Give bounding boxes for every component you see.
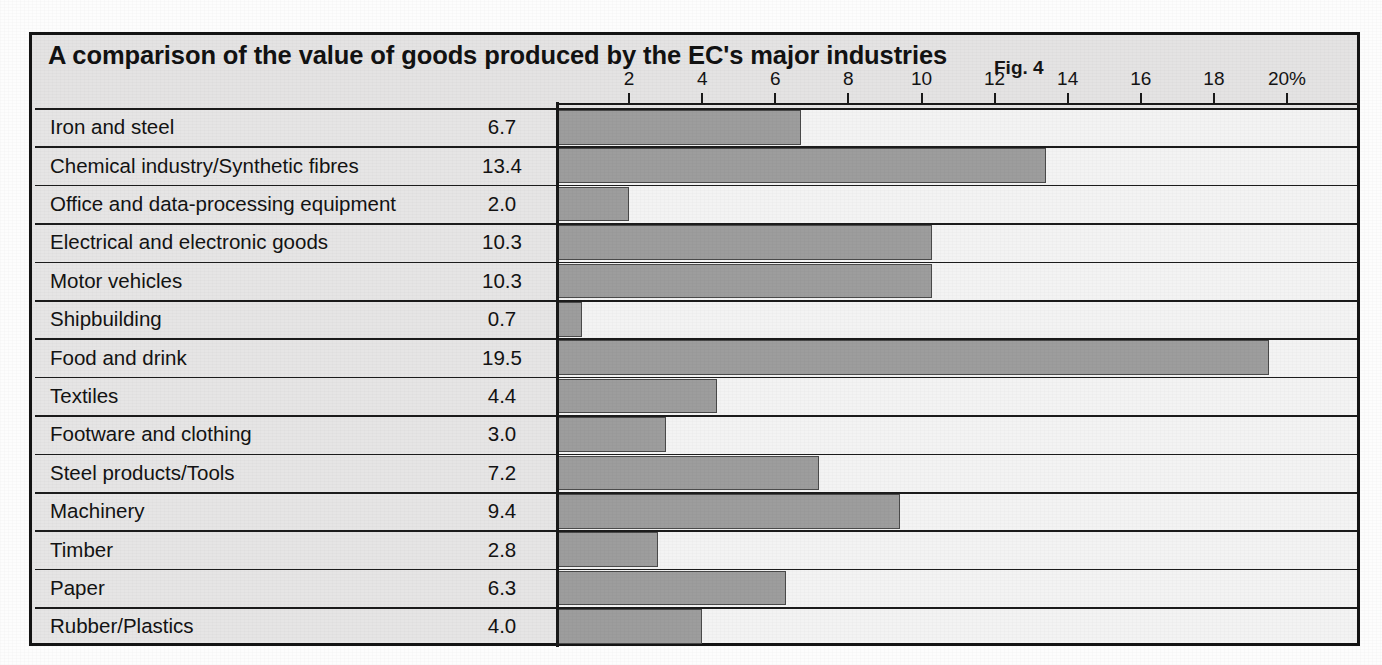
x-axis-tick-label: 14 [1057,68,1078,90]
x-axis-tick-label: 18 [1203,68,1224,90]
bar [556,609,702,644]
bar [556,417,666,452]
bar [556,302,582,337]
bar [556,494,900,529]
chart-row: Rubber/Plastics4.0 [32,607,1357,645]
chart-row: Steel products/Tools7.2 [32,454,1357,492]
category-label: Shipbuilding [50,307,162,331]
bar [556,571,786,606]
chart-figure-frame: A comparison of the value of goods produ… [29,32,1360,646]
x-axis-tick-label: 12 [984,68,1005,90]
chart-row: Iron and steel6.7 [32,108,1357,146]
value-label: 4.0 [447,615,557,639]
value-label: 6.7 [447,116,557,140]
chart-row: Textiles4.4 [32,377,1357,415]
chart-row: Electrical and electronic goods10.3 [32,223,1357,261]
value-label: 10.3 [447,269,557,293]
value-label: 13.4 [447,154,557,178]
category-label: Machinery [50,499,145,523]
chart-row: Food and drink19.5 [32,338,1357,376]
chart-row: Paper6.3 [32,569,1357,607]
category-label: Electrical and electronic goods [50,230,328,254]
chart-row: Office and data-processing equipment2.0 [32,185,1357,223]
value-label: 2.8 [447,538,557,562]
chart-title: A comparison of the value of goods produ… [48,41,947,70]
bar [556,225,932,260]
value-label: 6.3 [447,576,557,600]
scanned-page: A comparison of the value of goods produ… [0,0,1382,665]
y-axis-line [556,102,559,647]
bar [556,110,801,145]
x-axis-tick-label: 10 [911,68,932,90]
bar [556,148,1046,183]
value-label: 2.0 [447,192,557,216]
value-label: 19.5 [447,346,557,370]
chart-row: Footware and clothing3.0 [32,415,1357,453]
value-label: 7.2 [447,461,557,485]
x-axis-tick-label: 2 [624,68,635,90]
value-label: 10.3 [447,231,557,255]
bar [556,532,658,567]
bar [556,340,1269,375]
value-label: 0.7 [447,308,557,332]
row-separator [35,185,1357,187]
chart-row: Motor vehicles10.3 [32,262,1357,300]
category-label: Steel products/Tools [50,460,235,484]
bar [556,456,819,491]
chart-body: Iron and steel6.7Chemical industry/Synth… [32,108,1357,643]
category-label: Paper [50,576,105,600]
x-axis-tick-label: 20% [1268,68,1306,90]
x-axis-baseline [556,103,1360,105]
chart-row: Machinery9.4 [32,492,1357,530]
category-label: Timber [50,537,113,561]
category-label: Textiles [50,384,118,408]
row-separator [35,530,1357,532]
chart-row: Chemical industry/Synthetic fibres13.4 [32,146,1357,184]
category-label: Office and data-processing equipment [50,192,396,216]
category-label: Motor vehicles [50,268,182,292]
row-separator [35,415,1357,417]
x-axis-tick-label: 4 [697,68,708,90]
value-label: 9.4 [447,500,557,524]
bar [556,379,717,414]
category-label: Chemical industry/Synthetic fibres [50,153,359,177]
x-axis-tick-label: 8 [843,68,854,90]
chart-row: Timber2.8 [32,530,1357,568]
value-label: 4.4 [447,384,557,408]
category-label: Iron and steel [50,115,174,139]
x-axis-tick-label: 6 [770,68,781,90]
x-axis-tick-label: 16 [1130,68,1151,90]
chart-row: Shipbuilding0.7 [32,300,1357,338]
category-label: Food and drink [50,345,187,369]
bar [556,187,629,222]
value-label: 3.0 [447,423,557,447]
x-axis-scale: 2468101214161820% [32,68,1357,108]
category-label: Rubber/Plastics [50,614,194,638]
row-separator [35,300,1357,302]
bar [556,264,932,299]
category-label: Footware and clothing [50,422,252,446]
